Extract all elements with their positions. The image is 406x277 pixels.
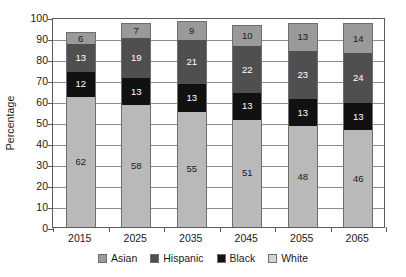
y-axis-tick-labels: 0102030405060708090100 — [18, 18, 48, 228]
x-tick-label: 2035 — [164, 232, 218, 244]
bar-2015[interactable]: 6131262 — [66, 32, 96, 227]
y-axis-tick-mark — [48, 82, 53, 83]
bar-segment-value: 13 — [297, 32, 308, 42]
bar-segment-white[interactable]: 48 — [288, 126, 318, 227]
bar-segment-black[interactable]: 13 — [343, 103, 373, 130]
bar-segment-value: 55 — [186, 164, 197, 174]
legend-item-hispanic[interactable]: Hispanic — [150, 253, 203, 264]
y-tick-label: 90 — [18, 34, 48, 44]
y-tick-label: 20 — [18, 181, 48, 191]
bar-segment-hispanic[interactable]: 13 — [66, 44, 96, 71]
bar-segment-value: 6 — [78, 34, 83, 44]
x-axis-tick-labels: 201520252035204520552065 — [52, 232, 385, 248]
bar-segment-hispanic[interactable]: 22 — [232, 46, 262, 92]
bar-segment-value: 62 — [75, 157, 86, 167]
bar-2035[interactable]: 9211355 — [177, 21, 207, 227]
bar-segment-hispanic[interactable]: 23 — [288, 51, 318, 99]
legend-label: Hispanic — [163, 253, 203, 264]
y-tick-label: 100 — [18, 13, 48, 23]
gridline — [53, 82, 384, 83]
legend-swatch-white-icon — [268, 254, 277, 263]
x-tick-label: 2015 — [53, 232, 107, 244]
bar-segment-asian[interactable]: 9 — [177, 21, 207, 40]
bar-segment-hispanic[interactable]: 19 — [121, 38, 151, 78]
gridline — [53, 40, 384, 41]
legend-swatch-black-icon — [217, 254, 226, 263]
bar-segment-hispanic[interactable]: 21 — [177, 40, 207, 84]
y-axis-tick-mark — [48, 19, 53, 20]
bar-2025[interactable]: 7191358 — [121, 23, 151, 227]
legend-label: Black — [230, 253, 256, 264]
gridline — [53, 187, 384, 188]
chart-legend: AsianHispanicBlackWhite — [0, 253, 406, 264]
bar-segment-value: 13 — [131, 87, 142, 97]
x-tick-label: 2045 — [219, 232, 273, 244]
y-tick-label: 30 — [18, 160, 48, 170]
y-tick-label: 10 — [18, 202, 48, 212]
gridline — [53, 145, 384, 146]
y-axis-title-label: Percentage — [4, 96, 16, 151]
stacked-bar-chart: Percentage 0102030405060708090100 613126… — [0, 0, 406, 277]
y-axis-tick-mark — [48, 103, 53, 104]
bar-segment-black[interactable]: 13 — [121, 78, 151, 105]
y-tick-label: 40 — [18, 139, 48, 149]
bar-2055[interactable]: 13231348 — [288, 23, 318, 227]
bar-2065[interactable]: 14241346 — [343, 23, 373, 227]
bar-segment-black[interactable]: 13 — [288, 99, 318, 126]
bar-segment-white[interactable]: 62 — [66, 97, 96, 227]
bar-segment-value: 14 — [353, 34, 364, 44]
bar-segment-white[interactable]: 46 — [343, 130, 373, 227]
bar-segment-value: 24 — [353, 73, 364, 83]
bar-segment-white[interactable]: 55 — [177, 112, 207, 228]
bar-segment-asian[interactable]: 13 — [288, 23, 318, 50]
bar-segment-white[interactable]: 58 — [121, 105, 151, 227]
plot-area: 6131262719135892113551022135113231348142… — [52, 18, 385, 228]
gridline — [53, 124, 384, 125]
bar-segment-asian[interactable]: 14 — [343, 23, 373, 52]
bar-segment-value: 58 — [131, 161, 142, 171]
legend-item-asian[interactable]: Asian — [98, 253, 137, 264]
bar-segment-asian[interactable]: 6 — [66, 32, 96, 45]
bar-segment-value: 51 — [242, 168, 253, 178]
bar-segment-value: 22 — [242, 65, 253, 75]
bar-segment-value: 48 — [297, 172, 308, 182]
bar-segment-value: 10 — [242, 31, 253, 41]
bar-segment-black[interactable]: 13 — [232, 93, 262, 120]
y-tick-label: 70 — [18, 76, 48, 86]
y-axis-tick-mark — [48, 208, 53, 209]
y-axis-tick-mark — [48, 166, 53, 167]
bar-segment-asian[interactable]: 7 — [121, 23, 151, 38]
gridline — [53, 208, 384, 209]
y-tick-label: 60 — [18, 97, 48, 107]
bar-segment-value: 19 — [131, 53, 142, 63]
legend-item-white[interactable]: White — [268, 253, 308, 264]
bar-segment-value: 13 — [297, 108, 308, 118]
gridline — [53, 103, 384, 104]
y-tick-label: 0 — [18, 223, 48, 233]
bar-segment-white[interactable]: 51 — [232, 120, 262, 227]
bar-segment-hispanic[interactable]: 24 — [343, 53, 373, 103]
bar-segment-asian[interactable]: 10 — [232, 25, 262, 46]
bar-segment-value: 12 — [75, 79, 86, 89]
bar-segment-value: 9 — [189, 26, 194, 36]
bar-segment-value: 46 — [353, 174, 364, 184]
x-tick-label: 2065 — [330, 232, 384, 244]
y-axis-tick-mark — [48, 187, 53, 188]
y-axis-tick-mark — [48, 61, 53, 62]
bar-segment-value: 7 — [134, 26, 139, 36]
y-axis-tick-mark — [48, 124, 53, 125]
y-axis-tick-mark — [48, 145, 53, 146]
gridline — [53, 61, 384, 62]
bar-segment-value: 13 — [242, 101, 253, 111]
legend-swatch-asian-icon — [98, 254, 107, 263]
y-tick-label: 50 — [18, 118, 48, 128]
bar-segment-black[interactable]: 13 — [177, 84, 207, 111]
x-tick-label: 2055 — [275, 232, 329, 244]
gridline — [53, 166, 384, 167]
bar-segment-value: 21 — [186, 57, 197, 67]
bar-segment-black[interactable]: 12 — [66, 72, 96, 97]
legend-item-black[interactable]: Black — [217, 253, 256, 264]
bar-2045[interactable]: 10221351 — [232, 25, 262, 227]
y-axis-tick-mark — [48, 40, 53, 41]
bar-segment-value: 23 — [297, 70, 308, 80]
